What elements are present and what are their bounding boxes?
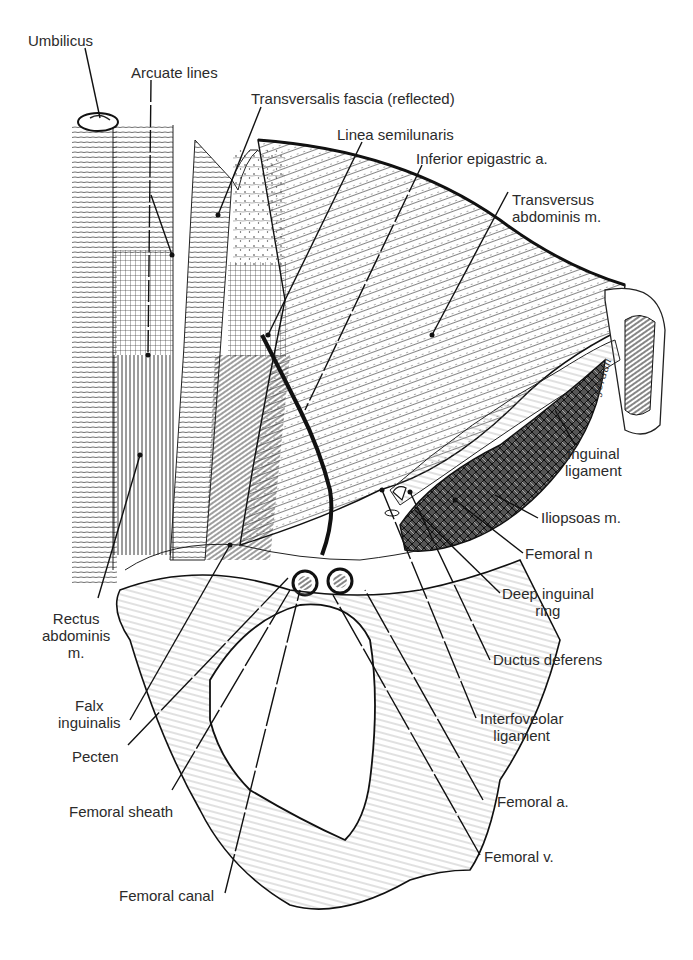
label-femoral-sheath: Femoral sheath bbox=[69, 803, 173, 820]
label-umbilicus: Umbilicus bbox=[28, 32, 93, 49]
label-interfoveolar-ligament: Interfoveolar ligament bbox=[480, 710, 563, 744]
label-ductus-deferens: Ductus deferens bbox=[493, 651, 602, 668]
label-rectus-abdominis: Rectus abdominis m. bbox=[42, 610, 110, 661]
label-pecten: Pecten bbox=[72, 748, 119, 765]
label-falx-inguinalis: Falx inguinalis bbox=[58, 697, 121, 731]
label-arcuate-lines: Arcuate lines bbox=[131, 64, 218, 81]
label-femoral-canal: Femoral canal bbox=[119, 887, 214, 904]
label-femoral-a: Femoral a. bbox=[497, 793, 569, 810]
label-iliopsoas: Iliopsoas m. bbox=[541, 509, 621, 526]
label-transversus-abdominis: Transversus abdominis m. bbox=[512, 191, 601, 225]
umbilicus bbox=[78, 113, 118, 131]
label-femoral-v: Femoral v. bbox=[484, 848, 554, 865]
abdominal-wall-edge bbox=[72, 125, 117, 585]
label-deep-inguinal-ring: Deep inguinal ring bbox=[502, 585, 594, 619]
label-linea-semilunaris: Linea semilunaris bbox=[337, 126, 454, 143]
label-transversalis-fascia: Transversalis fascia (reflected) bbox=[251, 90, 455, 107]
label-femoral-n: Femoral n bbox=[525, 545, 593, 562]
label-inguinal-ligament: Inguinal ligament bbox=[565, 445, 622, 479]
rectus-abdominis-muscle bbox=[113, 125, 173, 570]
label-inferior-epigastric: Inferior epigastric a. bbox=[416, 150, 548, 167]
